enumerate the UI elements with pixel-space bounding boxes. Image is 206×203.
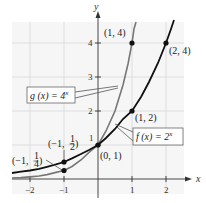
svg-text:): ) [39,155,42,167]
label-0-1: (0, 1) [100,150,122,162]
point-m1-quarter [61,168,66,173]
svg-text:): ) [75,138,78,150]
point-1-2 [129,108,134,113]
point-2-4 [163,40,168,45]
x-tick-label: −1 [59,185,69,195]
y-axis-arrow-icon [96,11,101,18]
g-function-label: g (x) = 4x [27,87,75,103]
label-2-4: (2, 4) [169,45,191,57]
label-1-2: (1, 2) [135,112,157,124]
exponential-functions-chart: x y −2 −1 1 2 1 2 3 4 g (x) = 4x f (x) =… [0,0,206,203]
y-tick-label: 4 [88,38,93,48]
x-tick-label: 2 [164,185,169,195]
label-1-4: (1, 4) [104,27,126,39]
point-0-1 [95,142,100,147]
y-tick-label: 2 [88,106,93,116]
x-axis-label: x [195,173,201,184]
svg-text:f (x) = 2x: f (x) = 2x [136,130,173,143]
f-function-label: f (x) = 2x [133,128,183,145]
svg-text:(−1,: (−1, [12,155,28,167]
point-m1-half [61,159,66,164]
x-axis-arrow-icon [185,177,192,182]
y-tick-label: 3 [88,72,93,82]
point-1-4 [129,40,134,45]
y-tick-label: 1 [89,133,94,143]
x-tick-label: 1 [130,185,135,195]
svg-text:g (x) = 4x: g (x) = 4x [30,89,69,102]
y-axis-label: y [93,1,99,12]
svg-text:(−1,: (−1, [48,138,64,150]
x-tick-label: −2 [25,185,35,195]
